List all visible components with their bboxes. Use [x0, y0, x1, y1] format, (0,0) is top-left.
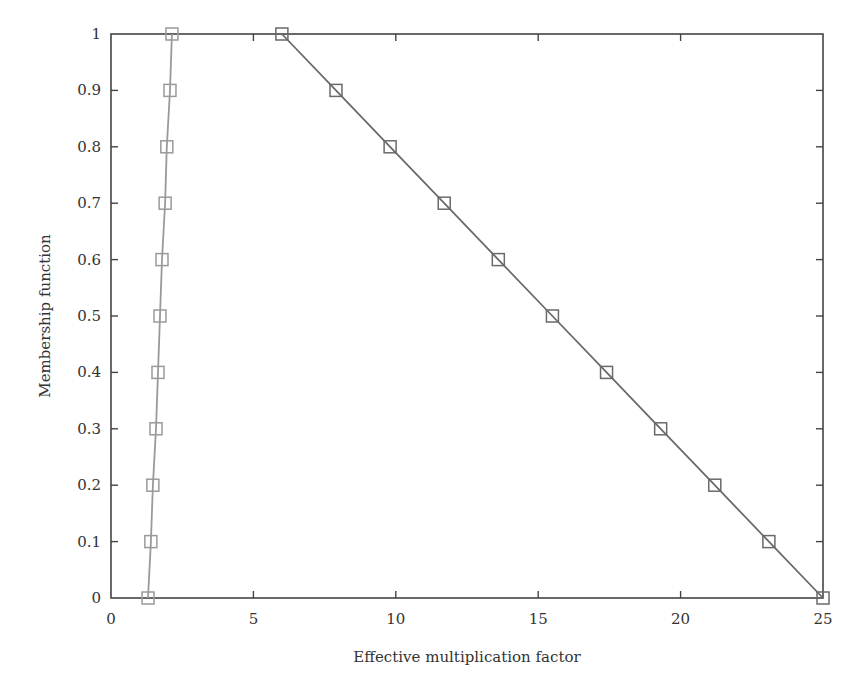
- y-axis-title: Membership function: [36, 234, 54, 398]
- series-left: [142, 28, 178, 604]
- series-line: [148, 34, 172, 598]
- plot-border: [111, 34, 823, 598]
- axis-tick-labels: 051015202500.10.20.30.40.50.60.70.80.91: [77, 25, 832, 628]
- series-layer: [142, 28, 829, 604]
- axis-ticks: [111, 34, 823, 598]
- x-tick-label: 15: [529, 610, 548, 628]
- y-tick-label: 0.9: [77, 81, 101, 99]
- y-tick-label: 0.6: [77, 251, 101, 269]
- x-axis-title: Effective multiplication factor: [353, 648, 581, 666]
- y-tick-label: 0.2: [77, 476, 101, 494]
- series-line: [282, 34, 823, 598]
- series-right: [276, 28, 829, 604]
- membership-function-chart: 051015202500.10.20.30.40.50.60.70.80.91 …: [0, 0, 862, 699]
- x-tick-label: 10: [386, 610, 405, 628]
- y-tick-label: 0.4: [77, 363, 101, 381]
- y-tick-label: 0.3: [77, 420, 101, 438]
- y-tick-label: 0.7: [77, 194, 101, 212]
- y-tick-label: 0.1: [77, 533, 101, 551]
- x-tick-label: 5: [249, 610, 259, 628]
- plot-frame: [111, 34, 823, 598]
- x-tick-label: 25: [813, 610, 832, 628]
- x-tick-label: 0: [106, 610, 116, 628]
- y-tick-label: 0: [91, 589, 101, 607]
- y-tick-label: 0.5: [77, 307, 101, 325]
- x-tick-label: 20: [671, 610, 690, 628]
- y-tick-label: 0.8: [77, 138, 101, 156]
- y-tick-label: 1: [91, 25, 101, 43]
